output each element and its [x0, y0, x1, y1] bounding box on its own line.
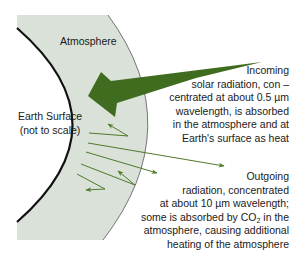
caption-line: Incoming [169, 64, 289, 78]
caption-text: in the [260, 211, 289, 223]
outgoing-radiation-caption: Outgoing radiation, concentrated at abou… [141, 170, 289, 251]
caption-text: some is absorbed by CO [141, 211, 257, 223]
atmosphere-label: Atmosphere [60, 35, 117, 49]
earth-surface-label-line1: Earth Surface [14, 110, 86, 124]
caption-line: in the atmosphere and at [169, 118, 289, 132]
caption-line: atmosphere, causing additional [141, 224, 289, 238]
caption-line: Outgoing [141, 170, 289, 184]
earth-surface-label-line2: (not to scale) [14, 124, 86, 138]
caption-line: centrated at about 0.5 µm [169, 91, 289, 105]
caption-line: some is absorbed by CO2 in the [141, 211, 289, 225]
incoming-radiation-caption: Incoming solar radiation, con – centrate… [169, 64, 289, 145]
earth-surface-label: Earth Surface (not to scale) [14, 110, 86, 137]
caption-line: at about 10 µm wavelength; [141, 197, 289, 211]
caption-line: solar radiation, con – [169, 78, 289, 92]
caption-line: radiation, concentrated [141, 184, 289, 198]
caption-line: heating of the atmosphere [141, 238, 289, 252]
caption-line: Earth's surface as heat [169, 132, 289, 146]
caption-line: wavelength, is absorbed [169, 105, 289, 119]
